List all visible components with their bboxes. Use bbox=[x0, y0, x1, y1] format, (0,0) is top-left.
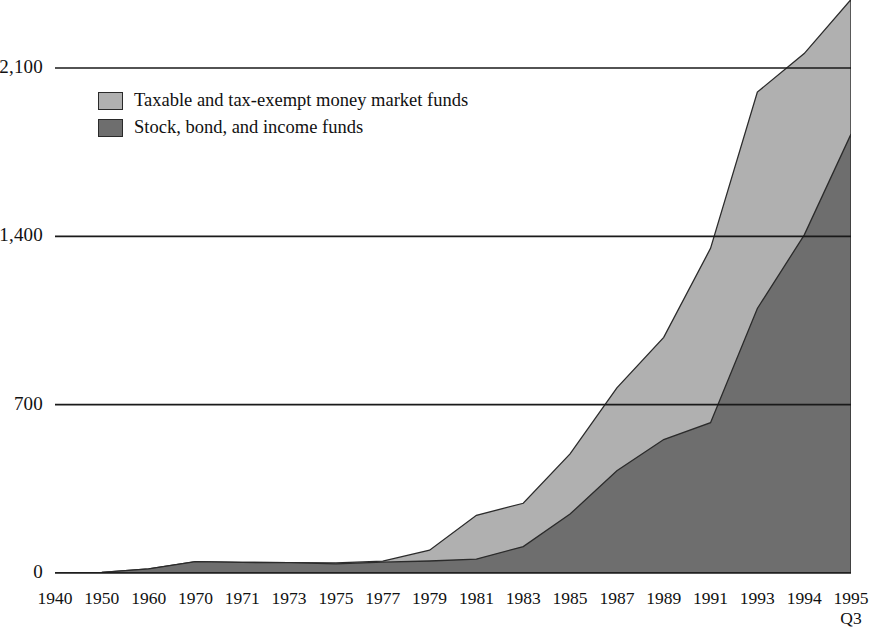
legend-item: Taxable and tax-exempt money market fund… bbox=[98, 90, 468, 111]
y-axis-tick-label: 1,400 bbox=[0, 224, 43, 246]
y-axis-tick-label: 2,100 bbox=[0, 56, 43, 78]
area-chart: 07001,4002,100 1940195019601970197119731… bbox=[0, 0, 885, 643]
x-axis-tick-label: 1995 bbox=[821, 588, 881, 609]
chart-legend: Taxable and tax-exempt money market fund… bbox=[98, 90, 468, 138]
y-axis-tick-label: 700 bbox=[14, 393, 43, 415]
legend-swatch-icon bbox=[98, 92, 123, 110]
legend-label: Taxable and tax-exempt money market fund… bbox=[134, 91, 468, 110]
x-axis-tick-sublabel: Q3 bbox=[821, 608, 881, 629]
series-layer bbox=[55, 0, 851, 573]
legend-swatch-icon bbox=[98, 119, 123, 137]
y-axis-tick-label: 0 bbox=[33, 561, 43, 583]
legend-label: Stock, bond, and income funds bbox=[134, 118, 363, 137]
legend-item: Stock, bond, and income funds bbox=[98, 117, 468, 138]
